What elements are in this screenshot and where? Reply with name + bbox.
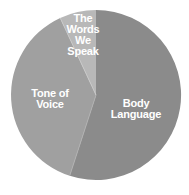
label-words-we-speak: The Words We Speak — [66, 13, 100, 57]
label-body-language: Body Language — [108, 98, 164, 120]
label-tone-of-voice: Tone of Voice — [30, 88, 70, 110]
